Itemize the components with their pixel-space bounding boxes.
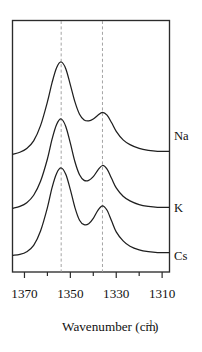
x-tick-label-1370: 1370 bbox=[11, 286, 38, 301]
x-axis-title-closing: ) bbox=[154, 319, 158, 334]
x-tick-label-1330: 1330 bbox=[103, 286, 130, 301]
x-axis-title-main: Wavenumber (cm bbox=[62, 319, 157, 334]
x-axis-title-superscript: -1 bbox=[146, 318, 153, 328]
x-tick-label-1310: 1310 bbox=[149, 286, 176, 301]
series-label-na: Na bbox=[174, 129, 189, 143]
spectra-plot: 1370 1350 1330 1310 Wavenumber (cm -1 ) … bbox=[0, 0, 202, 352]
series-label-k: K bbox=[174, 201, 183, 215]
spectra-figure: 1370 1350 1330 1310 Wavenumber (cm -1 ) … bbox=[0, 0, 202, 352]
series-label-cs: Cs bbox=[174, 249, 187, 263]
x-tick-label-1350: 1350 bbox=[57, 286, 84, 301]
x-axis-title: Wavenumber (cm -1 ) bbox=[62, 318, 158, 334]
